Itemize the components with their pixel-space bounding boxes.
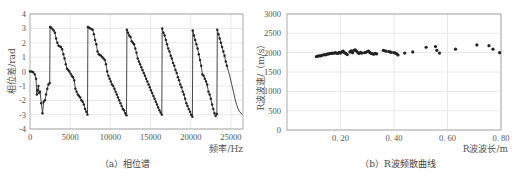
phase-point [95,43,97,45]
phase-x-tick-label: 10000 [100,132,121,142]
dispersion-y-tick-label: 2000 [264,48,281,58]
dispersion-y-tick-label: 0 [277,125,281,135]
phase-point [127,31,129,33]
phase-point [60,46,62,48]
dispersion-y-tick-label: 1500 [264,67,281,77]
phase-point [147,83,149,85]
dispersion-point [346,53,349,56]
dispersion-point [475,43,478,46]
dispersion-y-tick-label: 2500 [264,28,281,38]
phase-point [163,34,165,36]
phase-point [175,72,177,74]
phase-point [151,92,153,94]
phase-point [44,99,46,101]
phase-point [191,116,193,118]
phase-point [110,80,112,82]
phase-point [171,57,173,59]
dispersion-y-tick-label: 3000 [264,9,281,19]
phase-point [141,69,143,71]
phase-y-tick-label: -3 [19,110,26,120]
phase-point [135,52,137,54]
phase-point [150,89,152,91]
phase-point [202,75,204,77]
phase-grid [30,14,243,129]
dispersion-point [384,50,387,53]
phase-point [37,85,39,87]
phase-y-tick-label: -1 [19,81,26,91]
phase-point [133,43,135,45]
dispersion-y-tick-label: 500 [268,106,281,116]
phase-point [179,83,181,85]
phase-point [40,102,42,104]
phase-spectrum-chart: -4-3-2-101234 0500010000150002000025000 … [6,9,243,169]
phase-y-tick-label: -2 [19,95,26,105]
phase-x-tick-label: 25000 [220,132,241,142]
phase-point [93,33,95,35]
dispersion-x-tick-label: 0. 60 [439,133,456,143]
phase-point [195,43,197,45]
phase-x-ticks: 0500010000150002000025000 [28,132,242,142]
phase-point [216,29,218,31]
dispersion-y-tick-label: 1000 [264,86,281,96]
phase-point [194,39,196,41]
phase-point [56,42,58,44]
dispersion-y-axis-label: R波波速/（m/s） [255,40,266,111]
phase-point [190,113,192,115]
phase-point [192,29,194,31]
phase-point [182,90,184,92]
phase-point [32,71,34,73]
phase-point [94,39,96,41]
phase-point [222,50,224,52]
dispersion-point [425,46,428,49]
phase-point [199,59,201,61]
figure: -4-3-2-101234 0500010000150002000025000 … [0,0,517,175]
phase-point [178,79,180,81]
dispersion-point [403,51,406,54]
phase-point [129,36,131,38]
phase-point [140,66,142,68]
phase-point [106,70,108,72]
phase-point [118,99,120,101]
phase-point [53,29,55,31]
phase-point [61,48,63,50]
phase-point [137,57,139,59]
phase-point [225,60,227,62]
dispersion-point [434,45,437,48]
dispersion-point [438,51,441,54]
phase-point [116,93,118,95]
phase-point [79,96,81,98]
phase-x-tick-label: 20000 [180,132,201,142]
phase-point [204,77,206,79]
phase-point [210,98,212,100]
phase-point [74,88,76,90]
phase-point [36,89,38,91]
phase-point [173,65,175,67]
phase-point [186,105,188,107]
phase-point [86,113,88,115]
phase-point [55,37,57,39]
phase-point [161,27,163,29]
phase-point [139,63,141,65]
phase-point [166,43,168,45]
phase-point [72,76,74,78]
phase-point [144,75,146,77]
phase-x-axis-label: 频率/Hz [209,143,243,154]
phase-point [146,80,148,82]
phase-point [114,90,116,92]
phase-point [126,29,128,31]
dispersion-point [454,48,457,51]
phase-point [193,34,195,36]
phase-point [36,93,38,95]
dispersion-point [435,49,438,52]
phase-point [91,29,93,31]
dispersion-point [498,51,501,54]
phase-point [174,69,176,71]
phase-point [149,86,151,88]
phase-point [198,53,200,55]
phase-point [172,62,174,64]
phase-point [119,102,121,104]
phase-point [105,63,107,65]
phase-point [155,100,157,102]
phase-point [206,83,208,85]
dispersion-point [375,52,378,55]
